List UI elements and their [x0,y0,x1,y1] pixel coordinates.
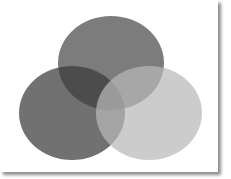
diagram-card [0,0,218,172]
venn-set-right [96,66,202,160]
venn-diagram [0,0,231,179]
